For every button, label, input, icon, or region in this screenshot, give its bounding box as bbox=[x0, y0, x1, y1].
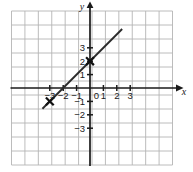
x-tick-label: −2 bbox=[58, 90, 69, 101]
graph-canvas: −3−2−10123 321−1−2−3 x y bbox=[0, 0, 193, 172]
x-tick-label: 0 bbox=[94, 90, 99, 101]
y-tick-label: −3 bbox=[74, 123, 85, 134]
x-axis-label: x bbox=[181, 86, 187, 97]
y-tick-label: 2 bbox=[80, 56, 85, 67]
x-tick-label: −3 bbox=[44, 90, 55, 101]
coordinate-graph: −3−2−10123 321−1−2−3 x y bbox=[0, 0, 193, 172]
y-tick-label: −2 bbox=[74, 109, 85, 120]
x-tick-label: 2 bbox=[114, 90, 119, 101]
canvas-background bbox=[0, 0, 193, 172]
y-tick-label: 3 bbox=[80, 42, 85, 53]
x-tick-label: 3 bbox=[128, 90, 133, 101]
x-tick-label: 1 bbox=[101, 90, 106, 101]
y-tick-label: −1 bbox=[74, 96, 85, 107]
y-axis-label: y bbox=[79, 1, 85, 12]
y-tick-label: 1 bbox=[80, 69, 85, 80]
